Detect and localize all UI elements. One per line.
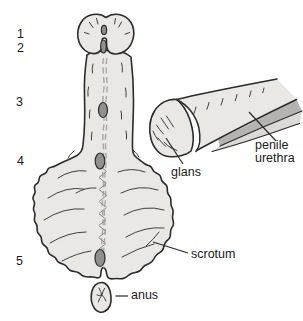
stage-number-4: 4 [17,154,24,168]
scrotum-label: scrotum [191,248,235,261]
stage-number-3: 3 [16,95,23,109]
anus-figure [91,283,111,313]
stage-number-1: 1 [17,27,24,41]
urethral-opening-3 [99,103,108,118]
glans-label: glans [171,166,201,179]
anus-label: anus [131,289,158,302]
urethral-opening-2 [101,40,107,53]
anatomy-diagram: 1 2 3 4 5 glans penile urethra scrotum a… [0,0,303,321]
stage-number-2: 2 [17,41,24,55]
stage-number-5: 5 [16,254,23,268]
anus-shape [91,283,111,313]
urethral-opening-5 [95,250,105,267]
urethral-opening-4 [95,153,105,169]
urethral-opening-1 [101,25,106,34]
penile-urethra-label: penile urethra [255,139,303,165]
main-figure-ventral-view [33,14,174,279]
